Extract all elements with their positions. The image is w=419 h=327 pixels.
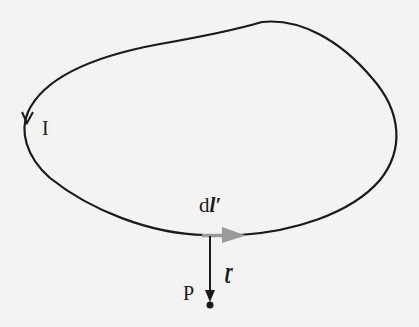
line-element-arrow-icon xyxy=(222,227,246,243)
line-element-label-d: d xyxy=(199,193,210,217)
field-point-dot xyxy=(207,302,214,309)
current-label: I xyxy=(42,117,49,140)
line-element-label-l: l′ xyxy=(210,193,222,217)
separation-vector-arrowhead-icon xyxy=(205,290,215,302)
current-loop-diagram xyxy=(0,0,419,327)
line-element-label: dl′ xyxy=(199,193,221,218)
field-point-label: P xyxy=(183,282,194,305)
separation-vector-label: ɽ xyxy=(225,260,233,283)
